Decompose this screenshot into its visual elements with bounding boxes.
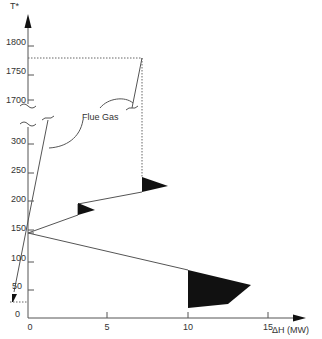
- pocket-upper: [142, 177, 168, 192]
- flue-gas-label: Flue Gas: [82, 112, 119, 122]
- flue-gas-line: [14, 58, 142, 292]
- dotted-reference-lines: [10, 58, 142, 302]
- pocket-lower: [188, 270, 251, 308]
- y-axis-arrow-icon: [25, 14, 32, 28]
- x-tick-5: 5: [97, 322, 117, 332]
- y-axis-break: [20, 104, 36, 126]
- y-tick-1800: 1800: [0, 37, 26, 47]
- y-tick-1700: 1700: [0, 95, 26, 105]
- y-tick-100: 100: [0, 253, 26, 263]
- pocket-middle: [78, 203, 95, 215]
- x-axis-arrow-icon: [293, 315, 306, 322]
- pocket-bottom-flag: [12, 294, 17, 302]
- y-tick-200: 200: [0, 194, 26, 204]
- y-tick-150: 150: [0, 223, 26, 233]
- y-tick-1750: 1750: [0, 66, 26, 76]
- flue-gas-leaders: [49, 99, 133, 148]
- x-tick-0: 0: [20, 322, 40, 332]
- gcc-diagram: [0, 0, 322, 339]
- y-tick-0: 0: [0, 309, 20, 319]
- x-tick-10: 10: [178, 322, 198, 332]
- y-axis-label: T*: [10, 1, 19, 11]
- grand-composite-curve: [28, 192, 188, 270]
- y-tick-50: 50: [0, 281, 22, 291]
- x-tick-15: 15: [258, 322, 278, 332]
- y-tick-300: 300: [0, 136, 26, 146]
- y-ticks: [28, 46, 34, 290]
- y-tick-250: 250: [0, 165, 26, 175]
- x-ticks: [107, 312, 268, 318]
